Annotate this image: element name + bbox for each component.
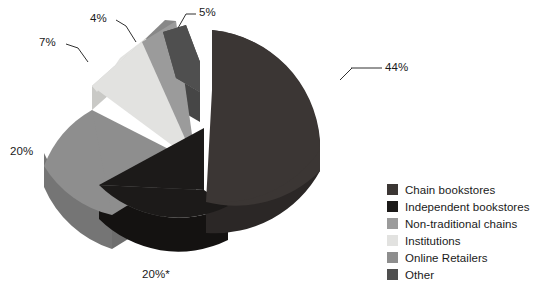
chart-legend: Chain bookstores Independent bookstores … (387, 181, 539, 283)
legend-item-other[interactable]: Other (387, 266, 539, 283)
data-label-independent-bookstores: 20%* (142, 268, 170, 280)
legend-label: Online Retailers (405, 252, 488, 264)
legend-label: Independent bookstores (405, 201, 530, 213)
legend-swatch-icon (387, 252, 398, 263)
legend-item-institutions[interactable]: Institutions (387, 232, 539, 249)
leader-line-4 (116, 20, 136, 42)
leader-line-44b (340, 68, 352, 80)
legend-label: Non-traditional chains (405, 218, 517, 230)
leader-line-5 (178, 14, 196, 28)
legend-swatch-icon (387, 218, 398, 229)
legend-swatch-icon (387, 235, 398, 246)
data-label-other: 5% (199, 6, 216, 18)
legend-item-non-traditional-chains[interactable]: Non-traditional chains (387, 215, 539, 232)
legend-item-chain-bookstores[interactable]: Chain bookstores (387, 181, 539, 198)
legend-item-independent-bookstores[interactable]: Independent bookstores (387, 198, 539, 215)
data-label-online-retailers: 20% (10, 145, 33, 157)
legend-swatch-icon (387, 184, 398, 195)
data-label-institutions: 7% (39, 36, 56, 48)
pie-chart-figure: 44% 20%* 20% 7% 4% 5% Chain bookstores I… (0, 0, 541, 294)
leader-line-7 (66, 44, 88, 62)
legend-label: Chain bookstores (405, 184, 495, 196)
legend-swatch-icon (387, 201, 398, 212)
legend-label: Institutions (405, 235, 461, 247)
data-label-chain-bookstores: 44% (385, 61, 408, 73)
legend-label: Other (405, 269, 434, 281)
legend-swatch-icon (387, 269, 398, 280)
data-label-nontraditional-chains: 4% (90, 12, 107, 24)
legend-item-online-retailers[interactable]: Online Retailers (387, 249, 539, 266)
